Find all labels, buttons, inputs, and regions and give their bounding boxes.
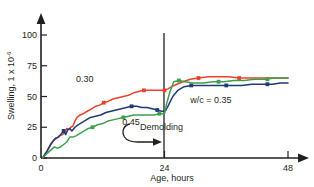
series-marker-1-1 (130, 104, 134, 108)
chart-figure: 0255075100 02448 0.30w/c = 0.350.45 Demo… (0, 0, 314, 187)
y-axis-title-exponent: -6 (6, 51, 12, 57)
y-axis-tick-labels: 0255075100 (22, 30, 37, 163)
series-marker-2-3 (177, 79, 181, 83)
series-label-1: w/c = 0.35 (189, 95, 231, 105)
series-marker-2-4 (217, 80, 221, 84)
series-marker-2-0 (91, 125, 95, 129)
y-axis-ticks (41, 35, 47, 158)
y-tick-label-50: 50 (27, 92, 37, 102)
y-tick-label-25: 25 (27, 122, 37, 132)
x-tick-label-24: 24 (159, 163, 169, 173)
svg-text:Swelling, 1 x 10-6: Swelling, 1 x 10-6 (6, 51, 16, 120)
series-marker-1-4 (224, 84, 228, 88)
series-marker-2-5 (266, 77, 270, 81)
x-tick-label-48: 48 (283, 163, 293, 173)
series-marker-0-3 (197, 76, 201, 80)
data-series-group (43, 76, 288, 158)
y-tick-label-75: 75 (27, 61, 37, 71)
series-marker-0-2 (163, 88, 167, 92)
demolding-annotation-label: Demolding (140, 122, 183, 132)
y-tick-label-0: 0 (32, 153, 37, 163)
series-marker-2-2 (157, 112, 161, 116)
series-label-0: 0.30 (76, 74, 94, 84)
x-axis-title: Age, hours (150, 173, 194, 183)
series-label-2: 0.45 (122, 117, 140, 127)
x-axis-ticks (165, 151, 289, 158)
series-marker-0-4 (237, 76, 241, 80)
series-marker-1-3 (189, 84, 193, 88)
x-axis-tick-labels: 02448 (38, 163, 293, 173)
axes-group (37, 13, 309, 162)
x-tick-label-0: 0 (38, 163, 43, 173)
series-marker-0-1 (142, 88, 146, 92)
series-line-1 (43, 83, 288, 158)
swelling-vs-age-line-chart: 0255075100 02448 0.30w/c = 0.350.45 Demo… (0, 0, 314, 187)
y-axis-title: Swelling, 1 x 10 (6, 57, 16, 120)
y-axis-title-group: Swelling, 1 x 10-6 (6, 51, 16, 120)
y-axis-arrowhead (37, 13, 46, 24)
series-marker-1-2 (155, 108, 159, 112)
series-marker-1-0 (62, 129, 66, 133)
y-tick-label-100: 100 (22, 30, 37, 40)
series-marker-0-0 (102, 101, 106, 105)
x-axis-arrowhead (298, 154, 309, 163)
series-marker-1-5 (266, 82, 270, 86)
